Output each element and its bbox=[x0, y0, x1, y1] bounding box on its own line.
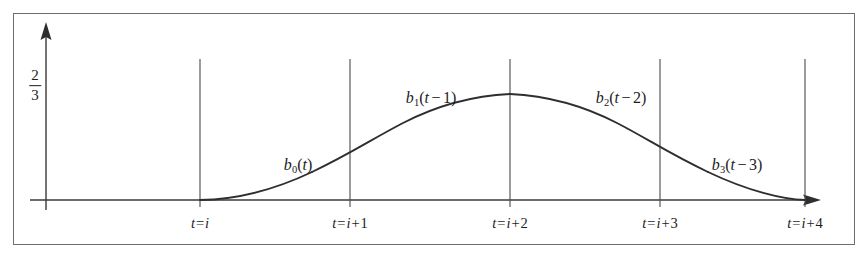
fraction-bar bbox=[29, 85, 41, 86]
curve-label-close-paren: ) bbox=[307, 156, 312, 173]
curve-label-b1: b1(t−1) bbox=[406, 90, 457, 109]
tick-rhs: i bbox=[205, 215, 209, 231]
fraction-denominator: 3 bbox=[29, 87, 41, 104]
tick-operator: + bbox=[805, 215, 815, 231]
x-tick-label-2: t=i+2 bbox=[492, 216, 528, 231]
tick-equals: = bbox=[336, 215, 346, 231]
tick-number: 2 bbox=[521, 215, 528, 231]
curve-label-base: b bbox=[284, 156, 292, 173]
tick-operator: + bbox=[660, 215, 670, 231]
tick-number: 1 bbox=[361, 215, 368, 231]
bspline-curve-segment-b3 bbox=[708, 172, 805, 200]
fraction-numerator: 2 bbox=[29, 68, 41, 85]
tick-operator: + bbox=[510, 215, 520, 231]
tick-equals: = bbox=[195, 215, 205, 231]
curve-label-base: b bbox=[406, 89, 414, 106]
x-tick-label-1: t=i+1 bbox=[332, 216, 368, 231]
curve-label-base: b bbox=[712, 156, 720, 173]
tick-equals: = bbox=[496, 215, 506, 231]
x-tick-label-0: t=i bbox=[191, 216, 209, 231]
curve-label-close-paren: ) bbox=[451, 89, 456, 106]
curve-label-operator: − bbox=[619, 89, 633, 106]
tick-equals: = bbox=[791, 215, 801, 231]
bspline-basis-figure: 2 3 t=i t=i+1 t=i+2 t=i+3 t=i+4 b0(t) b1… bbox=[0, 0, 866, 260]
plot-canvas bbox=[0, 0, 866, 260]
tick-operator: + bbox=[350, 215, 360, 231]
x-tick-label-3: t=i+3 bbox=[642, 216, 678, 231]
tick-equals: = bbox=[646, 215, 656, 231]
tick-number: 4 bbox=[816, 215, 823, 231]
curve-label-b0: b0(t) bbox=[284, 157, 313, 176]
bspline-curve-segment-b0 bbox=[200, 172, 312, 200]
curve-label-operator: − bbox=[735, 156, 749, 173]
curve-label-b2: b2(t−2) bbox=[596, 90, 647, 109]
tick-number: 3 bbox=[671, 215, 678, 231]
curve-label-operator: − bbox=[429, 89, 443, 106]
curve-label-close-paren: ) bbox=[757, 156, 762, 173]
y-axis-value-two-thirds: 2 3 bbox=[29, 68, 41, 104]
curve-label-close-paren: ) bbox=[641, 89, 646, 106]
curve-label-b3: b3(t−3) bbox=[712, 157, 763, 176]
curve-label-base: b bbox=[596, 89, 604, 106]
x-tick-label-4: t=i+4 bbox=[787, 216, 823, 231]
